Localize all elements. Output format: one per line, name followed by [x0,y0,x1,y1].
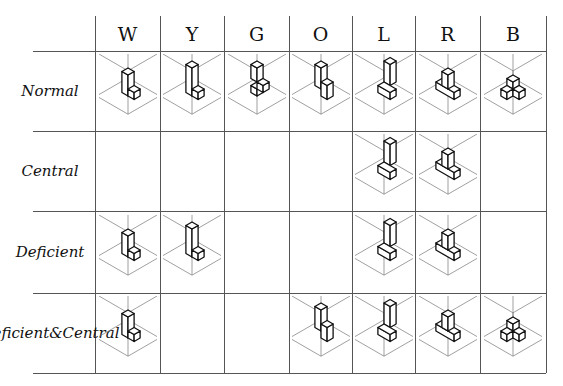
block-puzzle-figure-icon [163,215,221,289]
column-divider [546,16,547,373]
cell-normal-w [95,51,160,131]
cell-central-o [289,131,352,211]
block-puzzle-figure-icon [419,215,477,289]
row-divider [33,373,546,374]
block-puzzle-figure-icon [419,134,477,208]
cell-normal-y [160,51,224,131]
cell-central-b [480,131,546,211]
row-header-deficient-central: Deficient&Central [8,293,92,373]
column-header-w: W [95,18,160,50]
cell-normal-r [415,51,480,131]
block-puzzle-figure-icon [419,54,477,128]
cell-deficient-central-b [480,293,546,373]
row-header-deficient: Deficient [8,211,92,293]
cell-central-r [415,131,480,211]
cell-central-y [160,131,224,211]
block-puzzle-figure-icon [228,54,286,128]
cell-central-l [352,131,415,211]
cell-normal-g [224,51,289,131]
cell-deficient-central-w [95,293,160,373]
column-header-y: Y [160,18,224,50]
cell-deficient-g [224,211,289,293]
block-puzzle-figure-icon [99,54,157,128]
cell-deficient-central-l [352,293,415,373]
cell-deficient-w [95,211,160,293]
column-header-g: G [224,18,289,50]
cell-central-w [95,131,160,211]
block-puzzle-figure-icon [99,296,157,370]
block-puzzle-figure-icon [355,215,413,289]
row-header-line: Deficient [0,325,49,342]
cell-deficient-y [160,211,224,293]
cell-deficient-central-g [224,293,289,373]
row-header-normal: Normal [8,51,92,131]
column-header-b: B [480,18,546,50]
cell-central-g [224,131,289,211]
cell-deficient-l [352,211,415,293]
row-header-line: & [49,325,62,342]
cell-deficient-central-y [160,293,224,373]
cell-deficient-central-o [289,293,352,373]
column-header-o: O [289,18,352,50]
column-header-r: R [415,18,480,50]
block-puzzle-figure-icon [419,296,477,370]
cell-deficient-central-r [415,293,480,373]
cropped-page-title [130,0,430,2]
block-puzzle-figure-icon [292,54,350,128]
cell-deficient-o [289,211,352,293]
cell-deficient-b [480,211,546,293]
cell-normal-o [289,51,352,131]
block-puzzle-figure-icon [163,54,221,128]
cell-deficient-r [415,211,480,293]
row-header-central: Central [8,131,92,211]
column-header-l: L [352,18,415,50]
block-puzzle-figure-icon [355,134,413,208]
block-puzzle-figure-icon [484,54,542,128]
block-puzzle-figure-icon [292,296,350,370]
cell-normal-b [480,51,546,131]
block-puzzle-figure-icon [355,54,413,128]
block-puzzle-figure-icon [484,296,542,370]
block-puzzle-figure-icon [99,215,157,289]
cell-normal-l [352,51,415,131]
block-puzzle-figure-icon [355,296,413,370]
